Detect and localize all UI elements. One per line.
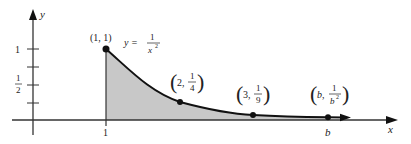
svg-text:3,: 3, [243,89,251,100]
svg-text:2: 2 [336,94,339,100]
svg-text:y =: y = [123,37,138,48]
shaded-area [106,49,328,120]
svg-text:2: 2 [155,43,158,49]
svg-text:9: 9 [256,95,261,105]
x-tick-label-1: 1 [103,127,108,138]
svg-text:b: b [330,96,335,106]
svg-text:1: 1 [16,73,21,83]
svg-text:b,: b, [317,89,325,100]
y-tick-label-half: 1 2 [15,73,22,95]
point-label-1-1: (1, 1) [90,32,112,44]
point-2-quarter [177,99,183,105]
y-axis-label: y [39,8,45,20]
svg-text:1: 1 [190,71,195,81]
y-axis-arrow-icon [29,9,37,20]
point-label-2-quarter: ( 2, 1 4 ) [170,69,204,94]
y-tick-label-1: 1 [15,44,20,55]
svg-text:1: 1 [332,83,337,93]
point-label-b: ( b, 1 b 2 ) [310,81,349,106]
svg-text:2: 2 [16,85,21,95]
point-3-ninth [250,112,256,118]
svg-text:): ) [197,69,204,94]
svg-text:4: 4 [190,83,195,93]
svg-text:x: x [147,45,152,55]
point-1-1 [103,46,110,53]
x-axis-label: x [387,123,393,135]
svg-text:): ) [342,81,349,106]
point-b [325,114,331,120]
svg-text:): ) [263,81,270,106]
x-tick-label-b: b [325,126,331,138]
point-label-3-ninth: ( 3, 1 9 ) [236,81,270,106]
svg-text:2,: 2, [177,77,185,88]
function-label: y = 1 x 2 [123,32,160,55]
svg-text:1: 1 [256,83,261,93]
svg-text:1: 1 [150,32,155,42]
chart: y x 1 b 1 1 2 (1, 1) y = 1 x 2 ( 2, 1 4 … [0,0,411,144]
